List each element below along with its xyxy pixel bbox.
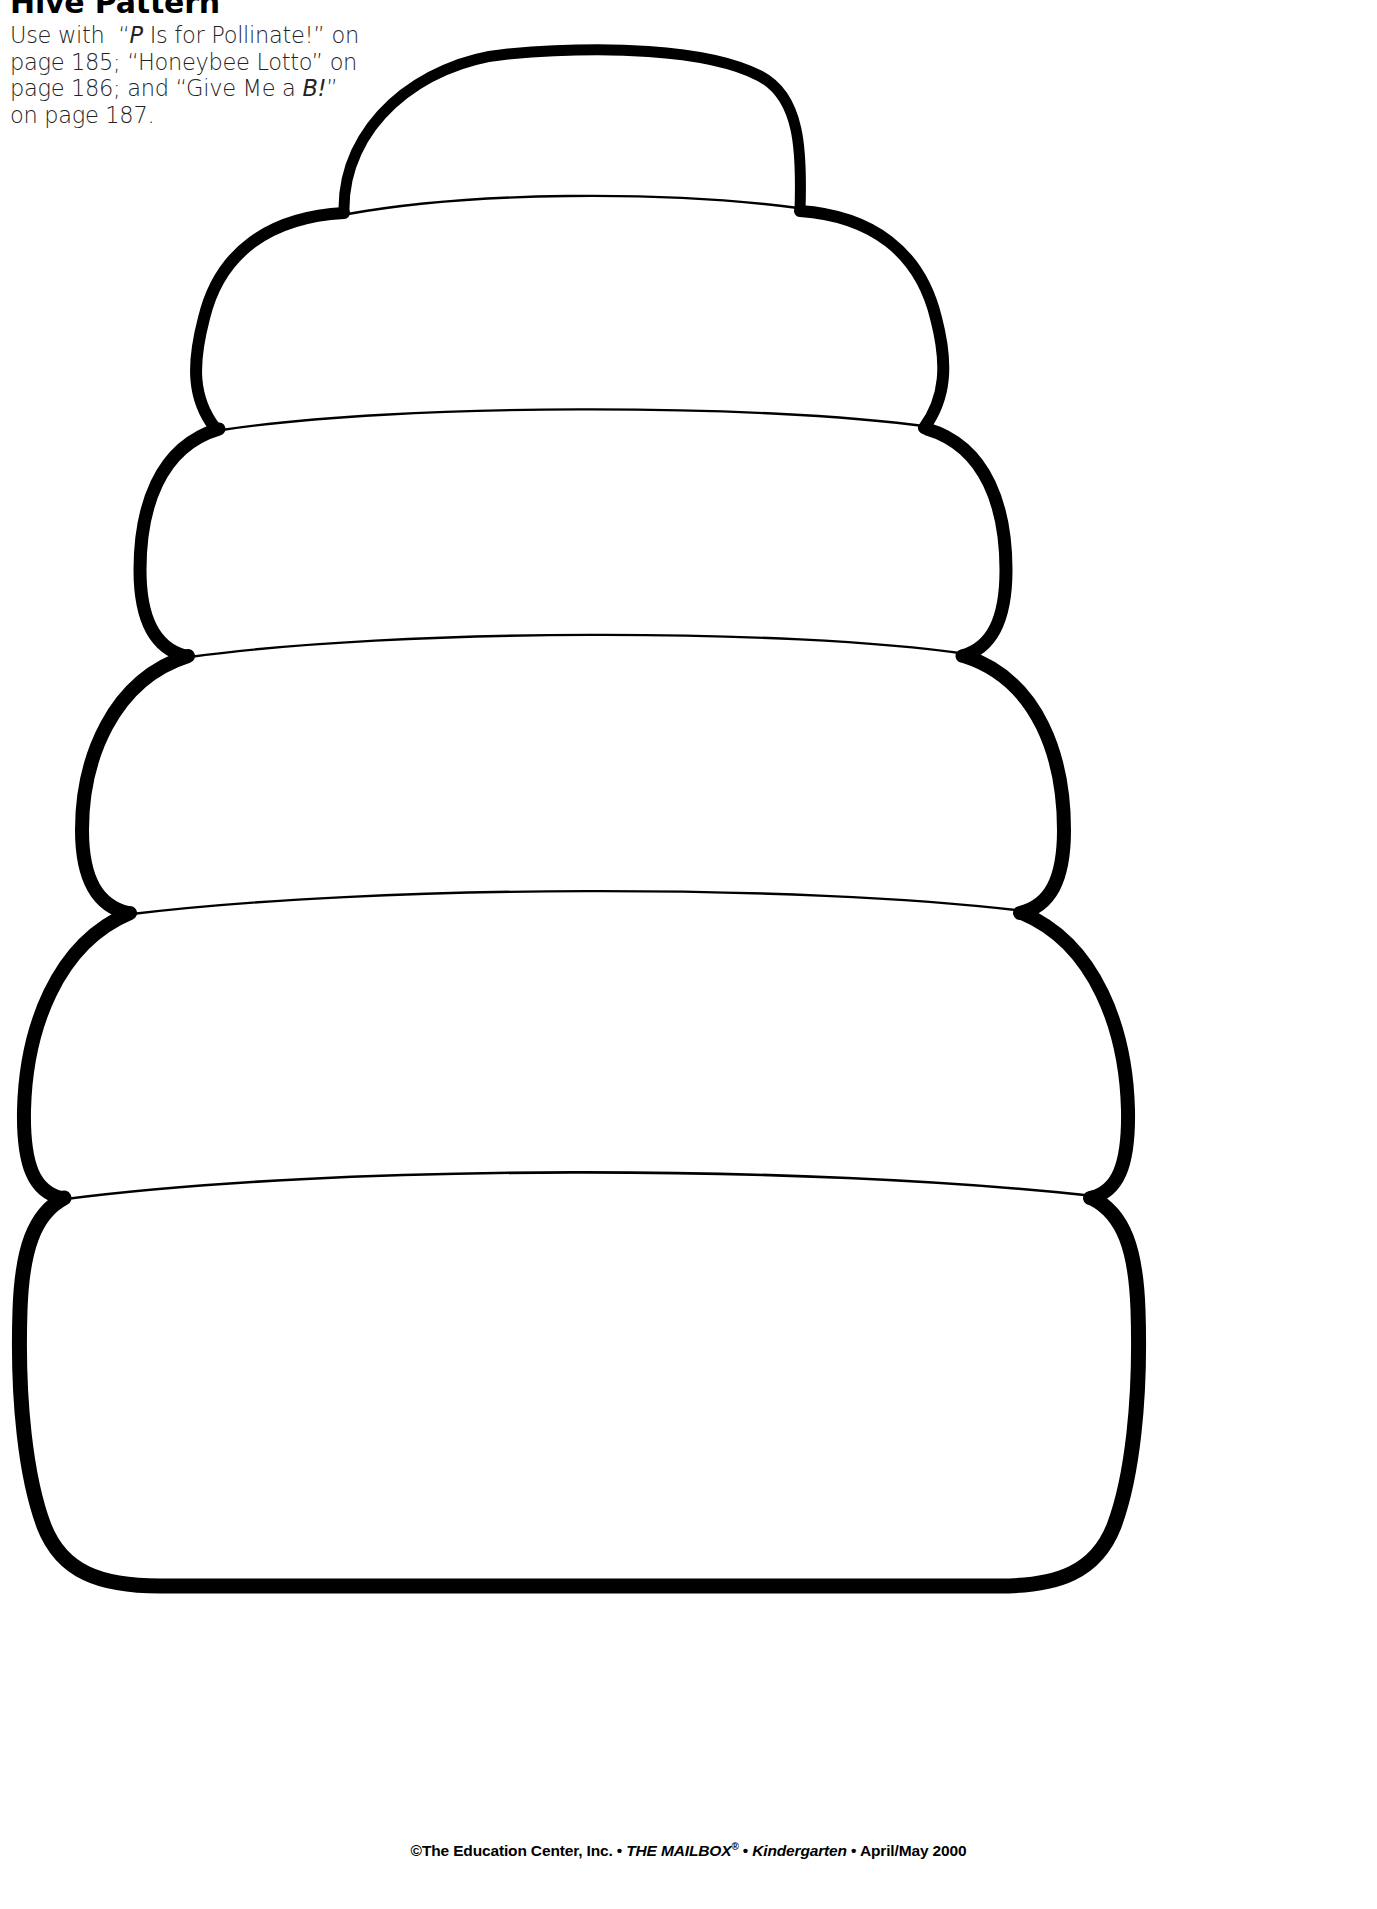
footer-sep-1: •: [617, 1842, 622, 1859]
hive-silhouette-fill: [33, 54, 1139, 1578]
instructions-line-2: page 185; “Honeybee Lotto” on: [10, 49, 370, 76]
instructions-text: Use with “P Is for Pollinate!” on page 1…: [10, 22, 370, 128]
instructions-line-3: page 186; and “Give Me a B!”: [10, 75, 370, 102]
footer-sep-3: •: [851, 1842, 856, 1859]
footer-sep-2: •: [743, 1842, 748, 1859]
footer-credit: ©The Education Center, Inc. • THE MAILBO…: [0, 1841, 1377, 1860]
page-title: Hive Pattern: [10, 0, 370, 18]
worksheet-page: Hive Pattern Use with “P Is for Pollinat…: [0, 0, 1377, 1909]
registered-mark-icon: ®: [731, 1841, 738, 1852]
instructions-line-4: on page 187.: [10, 102, 370, 129]
instructions-line-1: Use with “P Is for Pollinate!” on: [10, 22, 370, 49]
header-block: Hive Pattern Use with “P Is for Pollinat…: [10, 0, 370, 128]
beehive-outline-art: [0, 0, 1377, 1909]
footer-publication: THE MAILBOX: [626, 1842, 731, 1859]
footer-copyright: ©The Education Center, Inc.: [411, 1842, 613, 1859]
footer-issue: April/May 2000: [860, 1842, 966, 1859]
footer-grade: Kindergarten: [752, 1842, 847, 1859]
